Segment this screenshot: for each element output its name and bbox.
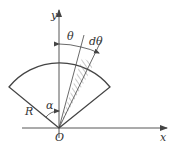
origin-label: O — [55, 131, 64, 144]
x-axis-label: x — [160, 131, 167, 144]
theta-arc — [59, 44, 81, 47]
sector-outline — [9, 63, 110, 128]
radius-label: R — [24, 105, 33, 118]
y-axis-label: y — [50, 9, 58, 22]
dtheta-ray — [59, 41, 101, 128]
alpha-label: α — [46, 99, 54, 112]
theta-label: θ — [67, 30, 74, 43]
sector-diagram: y x O R α θ dθ — [0, 0, 176, 151]
dtheta-label: dθ — [89, 35, 103, 48]
